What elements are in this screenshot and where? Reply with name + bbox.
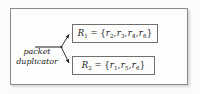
equation-r1-element-3-subscript: 4 [132, 33, 136, 39]
output-set-box-r1: R1={r2,r3,r4,r6} [72, 24, 158, 43]
packet-duplicator-label: packet duplicator [8, 47, 66, 66]
equation-r1-element-4-subscript: 6 [143, 33, 147, 39]
equation-r1-operator: = [90, 28, 97, 38]
equation-r2-operator: = [94, 60, 101, 70]
equation-r2-close-brace: } [140, 60, 146, 70]
output-set-box-r2: R2={r1,r5,r6} [72, 56, 155, 75]
equation-r1-close-brace: } [147, 28, 153, 38]
equation-r1: R1={r2,r3,r4,r6} [78, 29, 152, 38]
packet-duplicator-label-line1: packet [8, 47, 66, 57]
equation-r2-element-3-subscript: 6 [136, 65, 140, 71]
equation-r1-name-subscript: 1 [84, 33, 88, 39]
equation-r2: R2={r1,r5,r6} [82, 61, 145, 70]
equation-r1-element-1-subscript: 2 [110, 33, 114, 39]
equation-r2-element-2-subscript: 5 [125, 65, 129, 71]
packet-duplicator-figure: packet duplicator R1={r2,r3,r4,r6} R2={r… [0, 0, 200, 94]
equation-r2-element-1-subscript: 1 [114, 65, 118, 71]
equation-r1-element-2-subscript: 3 [121, 33, 125, 39]
packet-duplicator-label-line2: duplicator [8, 57, 66, 67]
equation-r2-name-subscript: 2 [88, 65, 92, 71]
